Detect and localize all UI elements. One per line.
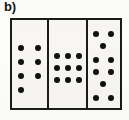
stimulus-dot xyxy=(18,87,24,93)
stimulus-dot xyxy=(76,77,82,83)
stimulus-dot xyxy=(65,53,71,59)
stimulus-dot xyxy=(76,53,82,59)
stimulus-dot xyxy=(65,77,71,83)
figure-label: b) xyxy=(4,0,16,14)
stimulus-box xyxy=(10,18,122,110)
stimulus-dot xyxy=(18,59,24,65)
stimulus-dot xyxy=(54,65,60,71)
stimulus-dot xyxy=(35,73,41,79)
stimulus-dot xyxy=(18,73,24,79)
stimulus-dot xyxy=(100,43,106,49)
dot-panel-right xyxy=(88,20,120,108)
stimulus-dot xyxy=(108,57,114,63)
stimulus-dot xyxy=(108,95,114,101)
stimulus-dot xyxy=(76,65,82,71)
stimulus-dot xyxy=(54,77,60,83)
stimulus-dot xyxy=(18,45,24,51)
stimulus-dot xyxy=(54,53,60,59)
dot-panel-middle xyxy=(49,20,88,108)
stimulus-dot xyxy=(93,31,99,37)
stimulus-dot xyxy=(108,69,114,75)
stimulus-dot xyxy=(35,45,41,51)
stimulus-dot xyxy=(93,95,99,101)
stimulus-dot xyxy=(35,59,41,65)
stimulus-dot xyxy=(93,57,99,63)
stimulus-dot xyxy=(65,65,71,71)
stimulus-dot xyxy=(93,69,99,75)
stimulus-dot xyxy=(100,81,106,87)
dot-panel-left xyxy=(12,20,49,108)
figure-root: b) xyxy=(0,0,129,120)
stimulus-dot xyxy=(108,31,114,37)
